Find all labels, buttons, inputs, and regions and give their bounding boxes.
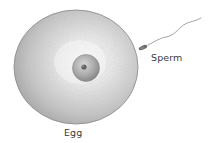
nucleolus-icon [81, 64, 86, 69]
diagram-canvas [0, 0, 208, 143]
egg-label: Egg [64, 127, 82, 138]
sperm-cell-icon [138, 18, 201, 51]
nucleus-icon [73, 55, 100, 82]
sperm-label: Sperm [151, 52, 182, 63]
fertilization-diagram: Sperm Egg [0, 0, 208, 143]
